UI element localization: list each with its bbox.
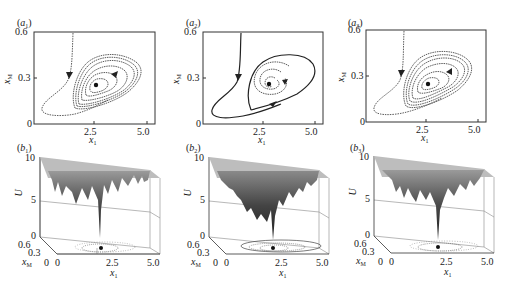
phase-panel-a3: (a3) 0.6 0.3 0 xM 2.5 5.0 x1 xyxy=(342,0,513,145)
y-axis-label: xM xyxy=(2,74,15,84)
xm-tick-0: 0 xyxy=(213,258,218,268)
phase-panel-a2: (a2) 0.6 0.3 0 xM 2.5 5.0 x1 xyxy=(171,0,342,145)
ztick-5: 5 xyxy=(31,195,36,205)
ztick-10: 10 xyxy=(25,153,35,163)
landscape-plot xyxy=(342,140,513,291)
ztick-0: 0 xyxy=(31,231,36,241)
y-axis-label: xM xyxy=(171,74,184,84)
x1-tick-5.0: 5.0 xyxy=(147,258,160,268)
ytick-0.3: 0.3 xyxy=(351,71,364,81)
ytick-0.6: 0.6 xyxy=(15,27,28,37)
x1-tick-0: 0 xyxy=(389,257,394,267)
xm-axis-label: xM xyxy=(191,257,201,270)
landscape-panel-b3: (b3) 10 5 0 U 0.6 0.3 0 xM 0 2.5 5.0 x1 xyxy=(342,140,513,291)
ytick-0: 0 xyxy=(27,119,32,129)
xtick-5.0: 5.0 xyxy=(305,127,318,137)
xtick-5.0: 5.0 xyxy=(137,127,150,137)
x1-tick-0: 0 xyxy=(224,258,229,268)
x1-tick-0: 0 xyxy=(55,258,60,268)
ytick-0.6: 0.6 xyxy=(348,25,361,35)
x1-axis-label: x1 xyxy=(444,267,451,280)
ztick-5: 5 xyxy=(365,194,370,204)
landscape-panel-b2: (b2) 10 5 0 U 0.6 0.3 0 xM 0 2.5 5.0 x1 xyxy=(171,140,342,291)
phase-panel-a1: (a1) 0.6 0.3 0 xM 2.5 5.0 x1 xyxy=(0,0,171,145)
xm-axis-label: xM xyxy=(356,256,366,269)
x1-axis-label: x1 xyxy=(110,268,117,281)
ztick-0: 0 xyxy=(200,231,205,241)
z-axis-label: U xyxy=(183,189,193,196)
xm-axis-label: xM xyxy=(22,257,32,270)
ytick-0.3: 0.3 xyxy=(187,73,200,83)
ztick-5: 5 xyxy=(200,195,205,205)
z-axis-label: U xyxy=(348,188,358,195)
ytick-0.6: 0.6 xyxy=(184,27,197,37)
xtick-5.0: 5.0 xyxy=(468,125,481,135)
ztick-10: 10 xyxy=(194,153,204,163)
y-axis-label: xM xyxy=(336,72,349,82)
landscape-panel-b1: (b1) 10 5 0 U 0.6 xyxy=(0,140,171,291)
z-axis-label: U xyxy=(14,189,24,196)
ytick-0: 0 xyxy=(196,119,201,129)
x1-tick-5.0: 5.0 xyxy=(316,258,329,268)
xm-tick-0: 0 xyxy=(378,257,383,267)
ytick-0: 0 xyxy=(360,117,365,127)
x1-tick-5.0: 5.0 xyxy=(481,257,494,267)
ytick-0.3: 0.3 xyxy=(18,73,31,83)
ztick-10: 10 xyxy=(359,152,369,162)
x1-axis-label: x1 xyxy=(279,268,286,281)
xm-tick-0: 0 xyxy=(44,258,49,268)
